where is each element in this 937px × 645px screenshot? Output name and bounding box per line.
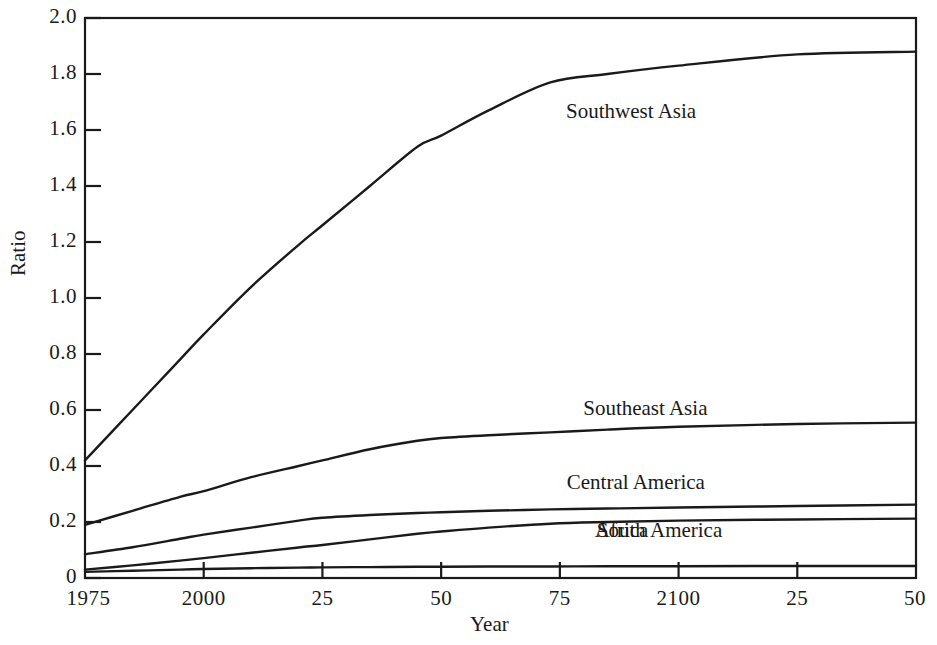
chart-figure: 00.20.40.60.81.01.21.41.61.82.0 19752000… [0,0,937,645]
x-tick-label-6: 25 [786,586,808,611]
series-label-southwest-asia: Southwest Asia [566,99,696,124]
series-line-south-america [85,566,916,572]
y-tick-label-5: 1.0 [49,284,77,309]
y-tick-label-2: 0.4 [49,452,77,477]
series-line-southwest-asia [85,52,916,461]
x-tick-label-3: 50 [430,586,452,611]
x-tick-label-5: 2100 [657,586,701,611]
series-label-south-america: South America [597,518,722,543]
x-tick-label-1: 2000 [182,586,226,611]
series-line-africa [85,519,916,570]
y-tick-label-8: 1.6 [49,116,77,141]
y-tick-label-7: 1.4 [49,172,77,197]
plot-area [0,0,937,645]
x-tick-label-7: 50 [904,586,926,611]
data-series-group [85,52,916,572]
series-label-southeast-asia: Southeast Asia [583,396,707,421]
y-tick-label-10: 2.0 [49,4,77,29]
series-label-central-america: Central America [567,470,705,495]
y-tick-label-3: 0.6 [49,396,77,421]
x-tick-label-4: 75 [549,586,571,611]
y-tick-label-9: 1.8 [49,60,77,85]
x-axis-title: Year [470,612,509,637]
axes-group [85,18,916,578]
y-tick-label-4: 0.8 [49,340,77,365]
series-line-central-america [85,505,916,555]
x-tick-label-0: 1975 [67,586,111,611]
x-tick-label-2: 25 [311,586,333,611]
y-tick-label-1: 0.2 [49,508,77,533]
y-axis-title: Ratio [6,231,31,277]
plot-frame [85,18,916,578]
y-tick-label-6: 1.2 [49,228,77,253]
